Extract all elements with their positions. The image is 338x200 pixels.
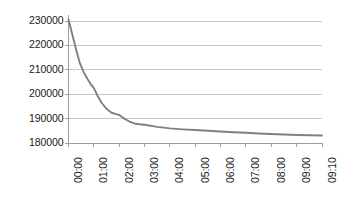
- y-axis-tick-label: 180000: [29, 137, 63, 148]
- data-line: [69, 20, 323, 136]
- y-axis-tick-label: 230000: [29, 15, 63, 26]
- x-axis-ticks: [69, 143, 323, 147]
- x-axis-tick-label: 08:00: [276, 157, 287, 183]
- y-axis-tick-label: 210000: [29, 64, 63, 75]
- x-axis-tick-label: 09:10: [327, 157, 338, 183]
- y-axis-tick-label: 220000: [29, 39, 63, 50]
- gridlines-group: [69, 21, 323, 143]
- x-axis-tick-label: 09:00: [301, 157, 312, 183]
- x-axis-tick-label: 04:00: [174, 157, 185, 183]
- x-axis-tick-label: 03:00: [149, 157, 160, 183]
- x-axis-tick-label: 06:00: [225, 157, 236, 183]
- x-axis-tick-label: 05:00: [200, 157, 211, 183]
- x-axis-tick-label: 01:00: [98, 157, 109, 183]
- x-axis-tick-label: 02:00: [124, 157, 135, 183]
- y-axis-ticks: [65, 21, 69, 143]
- x-axis-tick-label: 07:00: [250, 157, 261, 183]
- y-axis-tick-label: 200000: [29, 88, 63, 99]
- x-axis-tick-label: 00:00: [73, 157, 84, 183]
- y-axis-tick-label: 190000: [29, 113, 63, 124]
- data-series-group: [69, 20, 323, 136]
